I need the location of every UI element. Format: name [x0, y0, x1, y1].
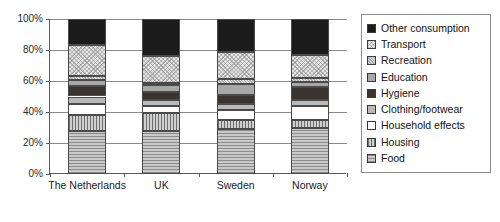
bar-segment-hygiene[interactable] — [217, 95, 255, 104]
bar-segment-recreation[interactable] — [291, 78, 329, 82]
legend-swatch-icon — [367, 121, 376, 130]
y-axis-tick-label: 40% — [3, 107, 43, 117]
legend-swatch-icon — [367, 73, 376, 82]
bar-segment-other-consumption[interactable] — [142, 19, 180, 56]
legend-swatch-icon — [367, 105, 376, 114]
legend-label: Hygiene — [381, 88, 420, 99]
bar-segment-other-consumption[interactable] — [68, 19, 106, 45]
bar-segment-household-effects[interactable] — [291, 106, 329, 120]
x-axis-tick-mark — [50, 173, 51, 177]
y-axis-tick-label: 100% — [3, 14, 43, 24]
bar-segment-transport[interactable] — [142, 56, 180, 82]
y-axis-tick-label: 0% — [3, 169, 43, 179]
bar-segment-recreation[interactable] — [68, 76, 106, 80]
bar-segment-clothing-footwear[interactable] — [291, 100, 329, 106]
legend-label: Food — [381, 153, 405, 164]
y-axis-tick-mark — [46, 81, 50, 82]
legend-label: Recreation — [381, 55, 432, 66]
bar-segment-food[interactable] — [291, 128, 329, 175]
y-axis-tick-mark — [46, 143, 50, 144]
legend-swatch-icon — [367, 138, 376, 147]
legend-label: Housing — [381, 137, 420, 148]
legend-item-education[interactable]: Education — [367, 69, 486, 85]
bar-segment-recreation[interactable] — [142, 83, 180, 85]
legend-swatch-icon — [367, 40, 376, 49]
legend-item-transport[interactable]: Transport — [367, 36, 486, 52]
legend-item-housing[interactable]: Housing — [367, 134, 486, 150]
x-axis-label-norway: Norway — [255, 179, 365, 192]
bar-segment-hygiene[interactable] — [142, 92, 180, 100]
legend-item-food[interactable]: Food — [367, 150, 486, 166]
bar-segment-food[interactable] — [142, 131, 180, 174]
legend-label: Household effects — [381, 120, 465, 131]
y-axis-tick-mark — [46, 19, 50, 20]
legend-label: Education — [381, 72, 428, 83]
bar-segment-education[interactable] — [217, 84, 255, 95]
bar-segment-clothing-footwear[interactable] — [217, 104, 255, 110]
y-axis-tick-mark — [46, 50, 50, 51]
legend-label: Other consumption — [381, 23, 470, 34]
legend-swatch-icon — [367, 56, 376, 65]
chart-legend: Other consumptionTransportRecreationEduc… — [361, 14, 491, 173]
bar-uk[interactable] — [142, 19, 180, 173]
legend-item-other-consumption[interactable]: Other consumption — [367, 20, 486, 36]
bar-segment-education[interactable] — [68, 80, 106, 86]
legend-label: Clothing/footwear — [381, 104, 463, 115]
bar-the-netherlands[interactable] — [68, 19, 106, 173]
bar-segment-food[interactable] — [68, 131, 106, 174]
bar-segment-clothing-footwear[interactable] — [68, 97, 106, 105]
x-axis-tick-mark — [273, 173, 274, 177]
y-axis-tick-label: 60% — [3, 76, 43, 86]
bar-segment-housing[interactable] — [217, 120, 255, 129]
bar-segment-education[interactable] — [291, 82, 329, 87]
bar-segment-transport[interactable] — [68, 45, 106, 77]
x-axis-tick-mark — [124, 173, 125, 177]
legend-item-household-effects[interactable]: Household effects — [367, 118, 486, 134]
legend-item-clothing-footwear[interactable]: Clothing/footwear — [367, 101, 486, 117]
bar-segment-transport[interactable] — [217, 52, 255, 80]
bar-norway[interactable] — [291, 19, 329, 173]
y-axis-tick-label: 20% — [3, 138, 43, 148]
bar-segment-housing[interactable] — [142, 113, 180, 131]
legend-swatch-icon — [367, 89, 376, 98]
bar-segment-housing[interactable] — [68, 115, 106, 131]
bar-segment-household-effects[interactable] — [142, 106, 180, 113]
bar-segment-hygiene[interactable] — [68, 86, 106, 96]
bar-segment-household-effects[interactable] — [68, 104, 106, 115]
bar-segment-education[interactable] — [142, 85, 180, 92]
bar-segment-recreation[interactable] — [217, 79, 255, 84]
legend-item-hygiene[interactable]: Hygiene — [367, 85, 486, 101]
legend-swatch-icon — [367, 154, 376, 163]
legend-swatch-icon — [367, 24, 376, 33]
stacked-bar-chart: 0%20%40%60%80%100%The NetherlandsUKSwede… — [0, 0, 500, 222]
bar-sweden[interactable] — [217, 19, 255, 173]
bar-segment-other-consumption[interactable] — [217, 19, 255, 52]
x-axis-tick-mark — [199, 173, 200, 177]
bar-segment-household-effects[interactable] — [217, 110, 255, 119]
bar-segment-hygiene[interactable] — [291, 87, 329, 99]
bar-segment-clothing-footwear[interactable] — [142, 100, 180, 106]
plot-area: 0%20%40%60%80%100%The NetherlandsUKSwede… — [49, 19, 346, 174]
bar-segment-other-consumption[interactable] — [291, 19, 329, 55]
y-axis-tick-label: 80% — [3, 45, 43, 55]
legend-item-recreation[interactable]: Recreation — [367, 53, 486, 69]
x-axis-tick-mark — [347, 173, 348, 177]
y-axis-tick-mark — [46, 112, 50, 113]
legend-label: Transport — [381, 39, 426, 50]
bar-segment-housing[interactable] — [291, 120, 329, 128]
bar-segment-transport[interactable] — [291, 55, 329, 77]
bar-segment-food[interactable] — [217, 129, 255, 174]
